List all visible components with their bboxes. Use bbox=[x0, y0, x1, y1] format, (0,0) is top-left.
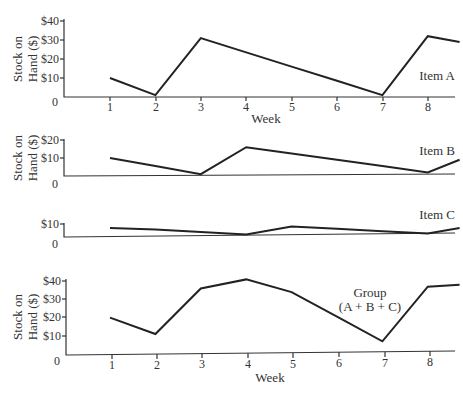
y-tick-label: $40 bbox=[41, 14, 59, 28]
series-label-item-a: Item A bbox=[419, 68, 455, 83]
x-axis-title-a: Week bbox=[251, 111, 281, 126]
series-label-item-c: Item C bbox=[419, 207, 455, 222]
axes-a bbox=[64, 19, 455, 97]
x-tick-label: 5 bbox=[289, 100, 295, 114]
x-tick-label: 3 bbox=[198, 100, 204, 114]
x-tick-label: 7 bbox=[380, 100, 386, 114]
y-axis-title-a: Stock on Hand ($) bbox=[10, 36, 40, 83]
x-tick-label: 5 bbox=[290, 357, 296, 371]
y-tick-label: $40 bbox=[43, 274, 61, 288]
y-tick-label: $10 bbox=[41, 151, 59, 165]
y-axis-title-line1: Stock on bbox=[10, 294, 25, 340]
line-item-c bbox=[110, 226, 460, 234]
x-tick-label: 4 bbox=[245, 357, 251, 371]
y-axis-title-line1: Stock on bbox=[10, 135, 25, 181]
inventory-charts: Stock on Hand ($) $40 $30 $20 $10 0 1 2 … bbox=[0, 0, 463, 399]
y-tick-label: $10 bbox=[41, 217, 59, 231]
y-tick-label: $20 bbox=[41, 52, 59, 66]
axes-c bbox=[64, 223, 455, 237]
y-axis-title-b: Stock on Hand ($) bbox=[10, 135, 40, 182]
y-tick-label: 0 bbox=[52, 95, 58, 109]
x-tick-label: 1 bbox=[107, 100, 113, 114]
y-axis-title-line1: Stock on bbox=[10, 36, 25, 82]
axes-b bbox=[64, 139, 455, 176]
y-tick-label: $30 bbox=[41, 33, 59, 47]
panel-item-b: Stock on Hand ($) $20 $10 0 Item B bbox=[10, 133, 460, 191]
y-tick-label: $10 bbox=[41, 71, 59, 85]
panel-item-c: $10 0 Item C bbox=[41, 207, 460, 251]
y-tick-label: 0 bbox=[52, 237, 58, 251]
x-tick-label: 6 bbox=[336, 356, 342, 370]
y-tick-label: $20 bbox=[41, 133, 59, 147]
panel-group: Stock on Hand ($) $40 $30 $20 $10 0 1 2 … bbox=[10, 274, 460, 385]
x-tick-label: 1 bbox=[109, 358, 115, 372]
line-item-a bbox=[110, 36, 460, 95]
y-axis-title-line2: Hand ($) bbox=[25, 135, 40, 182]
series-label-group-formula: (A + B + C) bbox=[339, 299, 401, 314]
y-tick-label: 0 bbox=[52, 177, 58, 191]
x-tick-label: 7 bbox=[382, 356, 388, 370]
x-tick-label: 4 bbox=[243, 100, 249, 114]
x-axis-title-group: Week bbox=[255, 370, 285, 385]
x-tick-label: 8 bbox=[427, 355, 433, 369]
x-tick-label: 3 bbox=[199, 357, 205, 371]
y-tick-label: $10 bbox=[43, 329, 61, 343]
line-group bbox=[110, 279, 460, 341]
panel-item-a: Stock on Hand ($) $40 $30 $20 $10 0 1 2 … bbox=[10, 14, 460, 126]
y-axis-title-group: Stock on Hand ($) bbox=[10, 294, 40, 341]
x-tick-label: 2 bbox=[154, 358, 160, 372]
y-axis-title-line2: Hand ($) bbox=[25, 294, 40, 341]
y-tick-label: 0 bbox=[54, 354, 60, 368]
x-tick-label: 8 bbox=[425, 100, 431, 114]
series-label-group: Group bbox=[353, 285, 386, 300]
axes-group bbox=[66, 279, 455, 355]
y-axis-title-line2: Hand ($) bbox=[25, 36, 40, 83]
x-tick-label: 2 bbox=[153, 100, 159, 114]
x-tick-label: 6 bbox=[334, 100, 340, 114]
series-label-item-b: Item B bbox=[419, 143, 455, 158]
y-tick-label: $30 bbox=[43, 292, 61, 306]
y-tick-label: $20 bbox=[43, 310, 61, 324]
line-item-b bbox=[110, 147, 460, 174]
